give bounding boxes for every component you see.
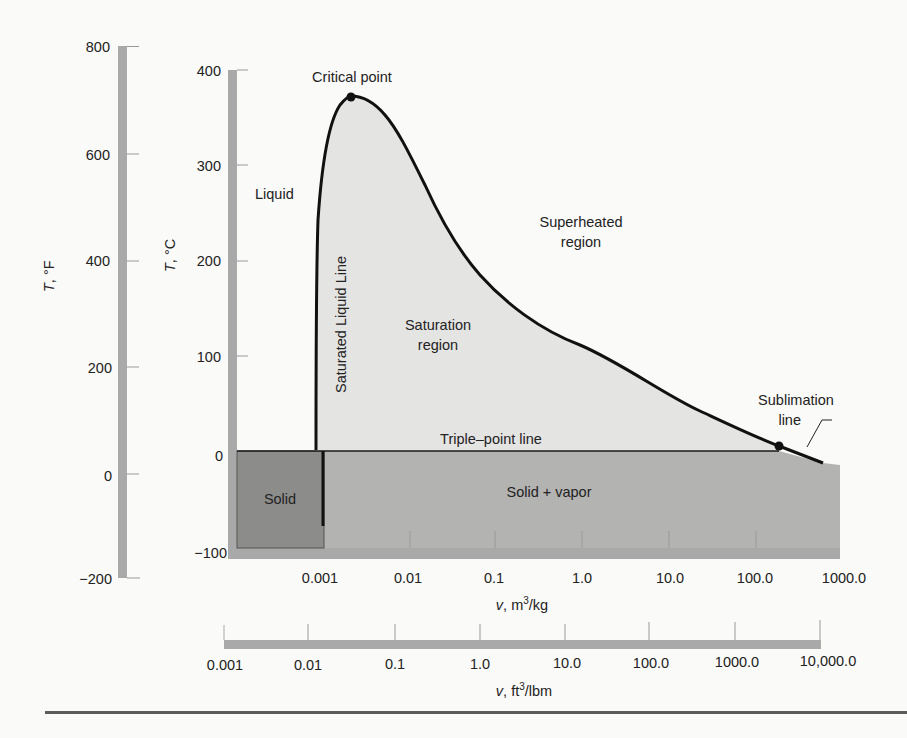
x-en-tick-1: 1.0 [470,656,490,672]
x-si-axis-label: v, m3/kg [496,595,548,613]
x-en-tick-10000: 10,000.0 [800,653,856,669]
saturation-region-label-2: region [418,337,458,353]
x-en-tick-0.001: 0.001 [207,657,243,673]
critical-point-marker [347,93,356,102]
critical-point-label: Critical point [312,69,392,85]
x-si-tick-0.1: 0.1 [484,570,504,586]
x-si-tick-10: 10.0 [656,570,684,586]
x-si-tick-1: 1.0 [572,570,592,586]
x-en-tick-0.1: 0.1 [385,656,405,672]
x-en-axis-label: v, ft3/lbm [496,681,552,699]
f-tick-400: 400 [86,253,110,269]
x-si-tick-0.01: 0.01 [394,570,422,586]
f-tick-600: 600 [86,147,110,163]
c-tick-100: 100 [197,349,221,365]
f-tick-200: 200 [88,360,112,376]
sublimation-line-label-1: Sublimation [758,392,834,408]
bottom-separator [45,711,907,714]
saturation-region [316,96,779,451]
triple-point-line-label: Triple–point line [440,431,542,447]
superheated-region-label-1: Superheated [539,214,622,230]
x-en-tick-0.01: 0.01 [294,657,322,673]
c-tick-300: 300 [197,158,221,174]
superheated-region-label-2: region [561,234,601,250]
x-si-tick-1000: 1000.0 [822,570,866,586]
c-tick-minus100: −100 [194,545,227,561]
triple-point-marker [775,442,784,451]
c-axis-label: T, °C [162,239,178,272]
x-en-tick-1000: 1000.0 [715,654,759,670]
solid-vapor-label: Solid + vapor [506,484,591,500]
phase-diagram: 800 600 400 200 0 −200 T, °F 400 300 200… [0,0,907,738]
f-axis-label: T, °F [41,260,57,292]
c-tick-200: 200 [197,253,221,269]
c-tick-0: 0 [215,448,223,464]
f-tick-0: 0 [104,468,112,484]
saturated-liquid-line-label: Saturated Liquid Line [333,256,349,393]
x-en-tick-10: 10.0 [553,655,581,671]
x-si-tick-0.001: 0.001 [302,570,338,586]
sublimation-line-label-2: line [778,412,801,428]
solid-label: Solid [264,491,296,507]
c-tick-400: 400 [197,63,221,79]
x-axis-si: 0.001 0.01 0.1 1.0 10.0 100.0 1000.0 v, … [302,570,866,613]
x-si-tick-100: 100.0 [737,570,773,586]
f-tick-minus200: −200 [79,571,112,587]
f-tick-800: 800 [86,39,110,55]
x-en-tick-100: 100.0 [633,655,669,671]
fahrenheit-axis: 800 600 400 200 0 −200 T, °F [41,39,140,587]
saturation-region-label-1: Saturation [405,317,471,333]
sublimation-leader [807,420,832,447]
liquid-label: Liquid [255,186,294,202]
celsius-axis: 400 300 200 100 0 −100 T, °C [162,63,248,561]
x-axis-bar [228,548,840,559]
x-axis-english: 0.001 0.01 0.1 1.0 10.0 100.0 1000.0 10,… [207,620,856,699]
